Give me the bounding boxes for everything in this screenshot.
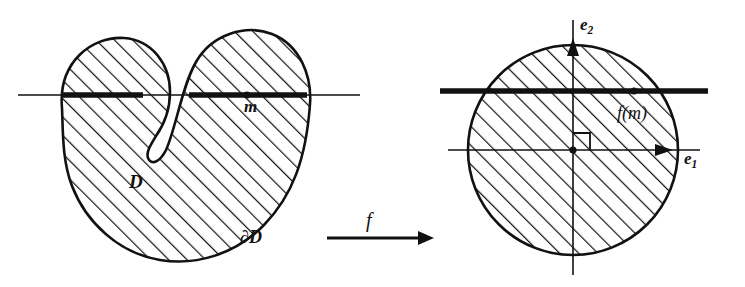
label-axis-e2: e2 xyxy=(580,15,594,37)
label-axis-e1: e1 xyxy=(684,149,697,171)
label-map-f: f xyxy=(366,209,374,232)
mapping-arrow-group: f xyxy=(327,209,434,245)
figure-root: D m ∂D f xyxy=(0,0,745,287)
label-point-fm: f(m) xyxy=(617,103,647,124)
label-axis-e1-subscript: 1 xyxy=(692,158,698,171)
origin-marker xyxy=(569,146,576,153)
diagram-svg: D m ∂D f xyxy=(0,0,745,287)
label-domain-D: D xyxy=(128,171,143,192)
left-domain-group: D m ∂D xyxy=(18,15,360,285)
point-fm-marker xyxy=(630,87,637,94)
label-axis-e2-subscript: 2 xyxy=(587,24,594,37)
label-boundary-dD: ∂D xyxy=(240,227,262,247)
right-disc-group: e2 e1 f(m) xyxy=(440,15,708,275)
label-point-m: m xyxy=(244,97,257,116)
domain-hatch-fill xyxy=(40,15,340,285)
arrow-head-icon xyxy=(418,231,434,245)
